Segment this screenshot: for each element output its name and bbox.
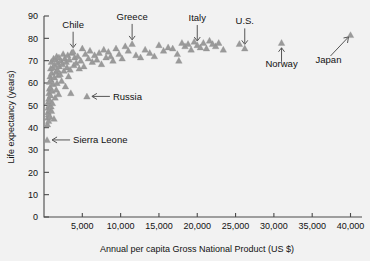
y-tick-label: 40 — [28, 123, 38, 133]
y-tick-label: 50 — [28, 101, 38, 111]
annotation-label-greece: Greece — [117, 11, 148, 22]
x-tick-label: 35,000 — [298, 221, 326, 231]
y-tick-label: 70 — [28, 56, 38, 66]
y-tick-label: 30 — [28, 145, 38, 155]
annotation-label-u-s: U.S. — [236, 15, 254, 26]
y-tick-label: 90 — [28, 11, 38, 21]
x-tick-label: 25,000 — [222, 221, 250, 231]
annotation-label-chile: Chile — [62, 19, 84, 30]
x-tick-label: 5,000 — [71, 221, 94, 231]
chart-canvas: 5,00010,00015,00020,00025,00030,00035,00… — [0, 0, 370, 261]
annotation-label-sierra-leone: Sierra Leone — [73, 134, 127, 145]
annotation-label-japan: Japan — [316, 54, 342, 65]
y-tick-label: 60 — [28, 78, 38, 88]
annotation-label-norway: Norway — [265, 58, 297, 69]
x-tick-label: 10,000 — [107, 221, 135, 231]
annotation-label-italy: Italy — [189, 12, 207, 23]
y-tick-label: 20 — [28, 168, 38, 178]
y-tick-label: 0 — [33, 212, 38, 222]
y-tick-label: 80 — [28, 34, 38, 44]
scatter-chart: 5,00010,00015,00020,00025,00030,00035,00… — [0, 0, 370, 261]
x-tick-label: 20,000 — [183, 221, 211, 231]
y-axis-title: Life expectancy (years) — [6, 70, 16, 163]
x-axis-title: Annual per capita Gross National Product… — [100, 244, 294, 254]
annotation-label-russia: Russia — [113, 91, 143, 102]
y-tick-label: 10 — [28, 190, 38, 200]
x-tick-label: 15,000 — [145, 221, 173, 231]
x-tick-label: 30,000 — [260, 221, 288, 231]
x-tick-label: 40,000 — [337, 221, 365, 231]
